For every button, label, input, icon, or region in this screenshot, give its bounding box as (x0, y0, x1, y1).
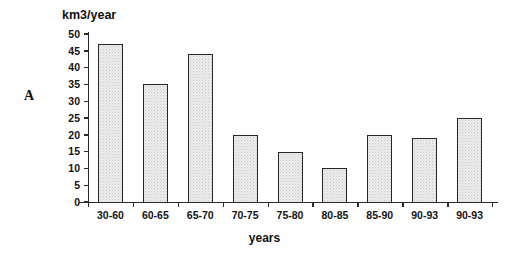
bar (412, 138, 437, 202)
bar-slot (312, 34, 357, 202)
bar-series (88, 34, 492, 202)
y-axis-tick-label: 20 (68, 129, 84, 140)
y-axis-tick-label: 30 (68, 95, 84, 106)
bar (367, 135, 392, 202)
x-axis-tick-mark (402, 202, 403, 207)
x-axis-category-label: 30-60 (88, 209, 133, 221)
x-axis-category-label: 65-70 (178, 209, 223, 221)
bar-slot (402, 34, 447, 202)
bar-slot (223, 34, 268, 202)
y-axis-title: km3/year (62, 8, 116, 22)
y-axis-tick-label: 25 (68, 112, 84, 123)
bar (457, 118, 482, 202)
y-axis-tick-label: 45 (68, 45, 84, 56)
x-axis-category-label: 70-75 (223, 209, 268, 221)
figure-panel-a: A km3/year 50454035302520151050 30-6060-… (0, 0, 529, 260)
bar-slot (88, 34, 133, 202)
x-axis-category-label: 60-65 (133, 209, 178, 221)
bar (143, 84, 168, 202)
panel-label: A (24, 88, 35, 104)
bar (278, 152, 303, 202)
x-axis-category-label: 90-93 (447, 209, 492, 221)
x-axis-category-labels: 30-6060-6565-7070-7575-8080-8585-9090-93… (88, 209, 492, 221)
x-axis-tick-mark (133, 202, 134, 207)
x-axis-ticks (88, 202, 492, 207)
bar-slot (178, 34, 223, 202)
y-axis-tick-label: 10 (68, 163, 84, 174)
x-axis-category-label: 75-80 (268, 209, 313, 221)
bar-slot (133, 34, 178, 202)
x-axis-tick-mark (492, 202, 493, 207)
x-axis-tick-mark (357, 202, 358, 207)
x-axis-category-label: 90-93 (402, 209, 447, 221)
bar (322, 168, 347, 202)
y-axis-tick-label: 40 (68, 62, 84, 73)
y-axis-tick-label: 50 (68, 28, 84, 39)
x-axis-title: years (0, 231, 529, 245)
x-axis-tick-mark (178, 202, 179, 207)
x-axis-category-label: 80-85 (312, 209, 357, 221)
y-axis-tick-label: 15 (68, 146, 84, 157)
y-axis-tick-label: 0 (74, 196, 84, 207)
x-axis-tick-mark (88, 202, 89, 207)
x-axis-category-label: 85-90 (357, 209, 402, 221)
bar-slot (447, 34, 492, 202)
x-axis-tick-mark (447, 202, 448, 207)
bar-slot (357, 34, 402, 202)
bar (98, 44, 123, 202)
bar-slot (268, 34, 313, 202)
y-axis-tick-label: 35 (68, 79, 84, 90)
y-axis-tick-label: 5 (74, 179, 84, 190)
bar (188, 54, 213, 202)
x-axis-tick-mark (223, 202, 224, 207)
x-axis-tick-mark (312, 202, 313, 207)
bar (233, 135, 258, 202)
x-axis-tick-mark (268, 202, 269, 207)
